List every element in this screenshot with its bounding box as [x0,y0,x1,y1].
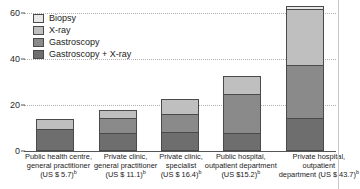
x-label-line: Private hospital, [279,152,359,161]
legend-swatch-icon [33,38,44,47]
legend-item[interactable]: Biopsy [33,13,131,24]
x-label-line: Public hospital, [205,152,277,161]
bar-segment[interactable] [224,95,260,134]
x-axis-category-label: Public hospital,outpatient department(US… [204,152,278,180]
bar-segment[interactable] [162,133,198,150]
x-label-line: Private clinic, [159,152,203,161]
right-frame-edge [338,0,339,189]
x-label-footnote-marker: b [74,169,77,175]
legend-label: X-ray [49,26,71,35]
y-axis-tick-label: 60 [10,8,20,18]
stacked-bar[interactable] [99,110,137,151]
bar-segment[interactable] [287,66,323,119]
x-label-footnote-marker: b [198,169,201,175]
stacked-bar[interactable] [161,99,199,151]
legend-label: Biopsy [49,14,76,23]
y-axis-tick-label: 40 [10,54,20,64]
bar-segment[interactable] [224,134,260,150]
y-axis-tick-label: 0 [15,146,20,156]
x-axis-labels: Public health centre,general practitione… [24,152,336,180]
chart-legend: BiopsyX-rayGastroscopyGastroscopy + X-ra… [33,13,131,60]
x-label-cost: (US $ 5.7)b [25,170,92,179]
x-axis-category-label: Private clinic,specialist(US $ 16.4)b [158,152,204,180]
x-label-line: Private clinic, [94,152,157,161]
x-axis-category-label: Private hospital,outpatientdepartment (U… [278,152,360,180]
y-axis-tick-label: 20 [10,100,20,110]
bar-segment[interactable] [37,120,73,130]
bar-segment[interactable] [287,10,323,65]
legend-label: Gastroscopy [49,38,100,47]
x-label-footnote-marker: b [257,169,260,175]
bar-segment[interactable] [287,119,323,150]
bar-segment[interactable] [100,134,136,150]
legend-swatch-icon [33,50,44,59]
x-label-footnote-marker: b [143,169,146,175]
legend-label: Gastroscopy + X-ray [49,50,131,59]
x-label-footnote-marker: b [356,169,359,175]
bar-segment[interactable] [162,100,198,115]
stacked-bar[interactable] [223,76,261,151]
legend-item[interactable]: Gastroscopy [33,37,131,48]
stacked-bar[interactable] [286,6,324,151]
legend-swatch-icon [33,26,44,35]
stacked-bar[interactable] [36,119,74,151]
x-axis-category-label: Public health centre,general practitione… [24,152,93,180]
legend-swatch-icon [33,14,44,23]
bar-segment[interactable] [100,111,136,119]
x-label-cost: (US $ 11.1)b [94,170,157,179]
legend-item[interactable]: Gastroscopy + X-ray [33,49,131,60]
x-axis-category-label: Private clinic,general practitioner(US $… [93,152,158,180]
x-label-cost: department (US $ 43.7)b [279,170,359,179]
bar-segment[interactable] [162,115,198,132]
bar-column[interactable] [149,8,211,151]
bar-column[interactable] [211,8,273,151]
bar-segment[interactable] [224,77,260,94]
bar-column[interactable] [274,8,336,151]
x-label-cost: (US $15.2)b [205,170,277,179]
bar-segment[interactable] [37,130,73,150]
legend-item[interactable]: X-ray [33,25,131,36]
x-label-line: Public health centre, [25,152,92,161]
bar-segment[interactable] [100,119,136,134]
x-label-cost: (US $ 16.4)b [159,170,203,179]
